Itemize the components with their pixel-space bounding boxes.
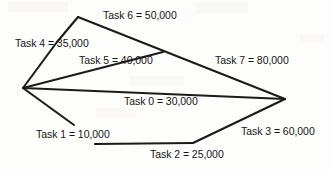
label-task-1: Task 1 = 10,000 xyxy=(36,128,110,140)
edge-task-4 xyxy=(23,17,78,88)
diagram-canvas: Task 6 = 50,000 Task 4 = 35,000 Task 5 =… xyxy=(0,0,332,170)
label-task-4: Task 4 = 35,000 xyxy=(15,37,89,49)
edge-task-1 xyxy=(23,88,74,125)
label-task-5: Task 5 = 40,000 xyxy=(79,54,153,66)
edge-task-2 xyxy=(95,143,193,144)
task-network-graph xyxy=(0,0,332,170)
label-task-3: Task 3 = 60,000 xyxy=(241,125,315,137)
label-task-2: Task 2 = 25,000 xyxy=(150,148,224,160)
label-task-0: Task 0 = 30,000 xyxy=(124,95,198,107)
label-task-7: Task 7 = 80,000 xyxy=(215,54,289,66)
label-task-6: Task 6 = 50,000 xyxy=(103,9,177,21)
